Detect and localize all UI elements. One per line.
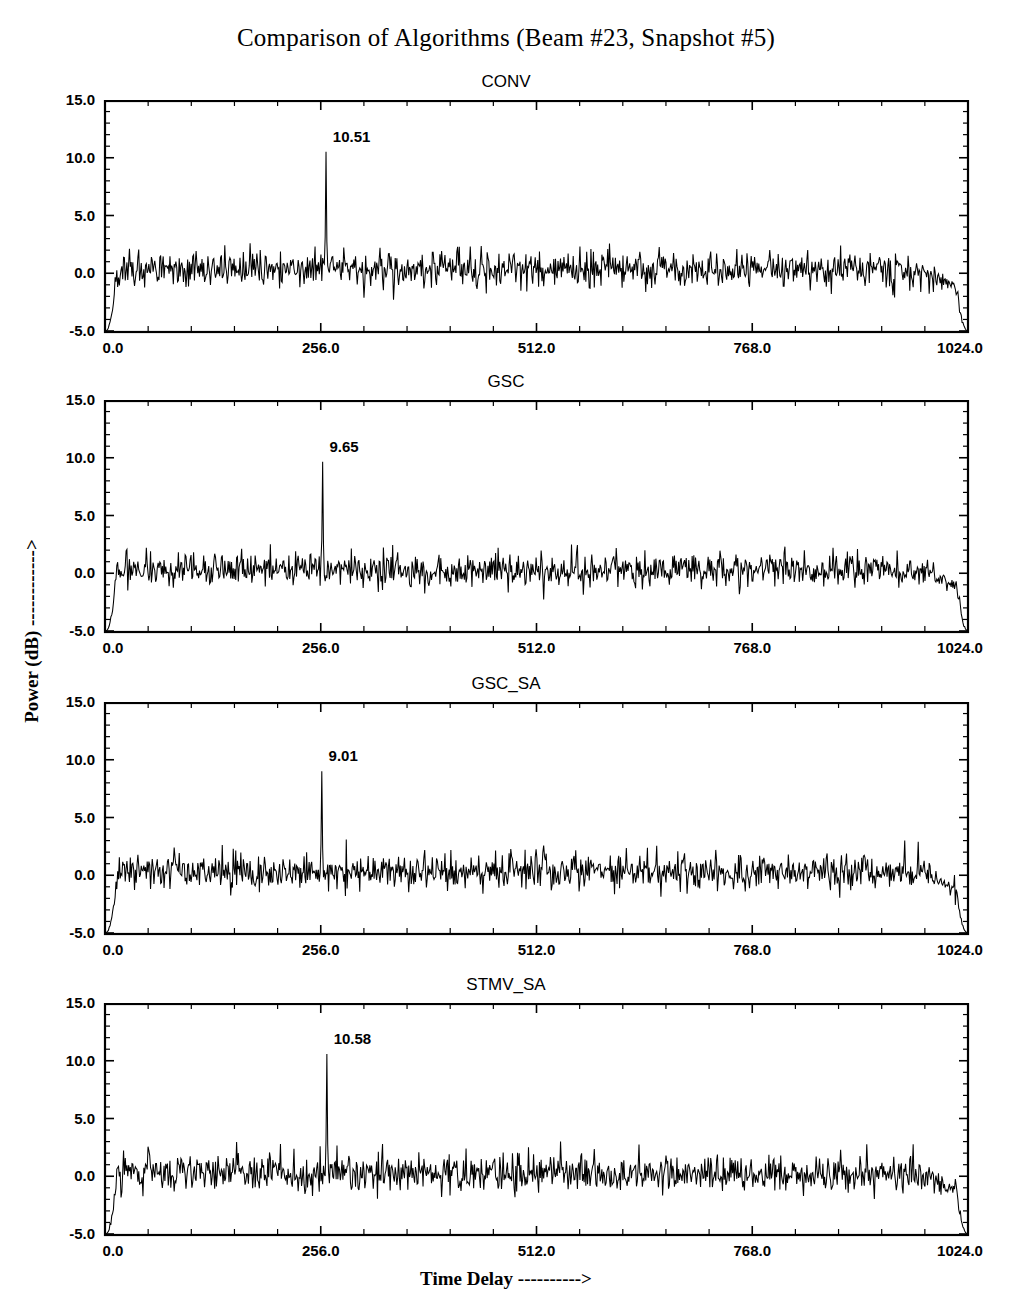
y-tick-label: 10.0	[37, 751, 95, 768]
x-tick-label: 512.0	[492, 1242, 582, 1259]
signal-trace	[105, 462, 968, 631]
y-tick-label: 5.0	[37, 809, 95, 826]
x-tick-label: 512.0	[492, 339, 582, 356]
x-tick-label: 0.0	[68, 339, 158, 356]
plot-frame	[105, 401, 968, 632]
x-tick-label: 256.0	[276, 941, 366, 958]
y-tick-label: -5.0	[37, 622, 95, 639]
y-tick-label: -5.0	[37, 924, 95, 941]
x-tick-label: 0.0	[68, 941, 158, 958]
x-tick-label: 1024.0	[915, 339, 1005, 356]
x-tick-label: 256.0	[276, 1242, 366, 1259]
subplot-title-stmv_sa: STMV_SA	[0, 975, 1012, 995]
page-title: Comparison of Algorithms (Beam #23, Snap…	[0, 24, 1012, 52]
peak-value-label: 9.01	[329, 747, 358, 764]
x-tick-label: 0.0	[68, 639, 158, 656]
plot-frame	[105, 1004, 968, 1235]
x-tick-label: 768.0	[707, 639, 797, 656]
y-tick-label: 0.0	[37, 866, 95, 883]
y-tick-label: 0.0	[37, 264, 95, 281]
subplot-title-gsc: GSC	[0, 372, 1012, 392]
subplot-title-gsc_sa: GSC_SA	[0, 674, 1012, 694]
figure-canvas: Comparison of Algorithms (Beam #23, Snap…	[0, 0, 1012, 1305]
y-tick-label: 0.0	[37, 1167, 95, 1184]
y-tick-label: 15.0	[37, 693, 95, 710]
x-tick-label: 768.0	[707, 941, 797, 958]
plot-frame	[105, 703, 968, 934]
y-tick-label: 10.0	[37, 149, 95, 166]
x-tick-label: 512.0	[492, 941, 582, 958]
x-tick-label: 1024.0	[915, 941, 1005, 958]
peak-value-label: 10.58	[334, 1030, 372, 1047]
x-tick-label: 256.0	[276, 639, 366, 656]
y-tick-label: 10.0	[37, 1052, 95, 1069]
y-tick-label: 10.0	[37, 449, 95, 466]
y-tick-label: 15.0	[37, 91, 95, 108]
signal-trace	[105, 152, 968, 331]
plot-frame	[105, 101, 968, 332]
y-tick-label: 0.0	[37, 564, 95, 581]
y-tick-label: 5.0	[37, 507, 95, 524]
subplot-title-conv: CONV	[0, 72, 1012, 92]
peak-value-label: 9.65	[329, 438, 358, 455]
y-tick-label: 15.0	[37, 994, 95, 1011]
x-tick-label: 0.0	[68, 1242, 158, 1259]
y-tick-label: 5.0	[37, 207, 95, 224]
y-tick-label: 5.0	[37, 1110, 95, 1127]
peak-value-label: 10.51	[333, 128, 371, 145]
x-tick-label: 768.0	[707, 339, 797, 356]
y-tick-label: 15.0	[37, 391, 95, 408]
x-tick-label: 768.0	[707, 1242, 797, 1259]
y-tick-label: -5.0	[37, 322, 95, 339]
x-tick-label: 512.0	[492, 639, 582, 656]
x-tick-label: 1024.0	[915, 639, 1005, 656]
signal-trace	[105, 771, 968, 933]
x-tick-label: 256.0	[276, 339, 366, 356]
y-tick-label: -5.0	[37, 1225, 95, 1242]
signal-trace	[105, 1054, 968, 1234]
x-tick-label: 1024.0	[915, 1242, 1005, 1259]
